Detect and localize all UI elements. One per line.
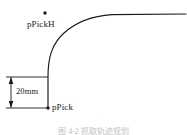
pick-high-point-marker bbox=[43, 11, 46, 14]
dimension-arrow-up-icon bbox=[9, 77, 14, 84]
figure-caption: 图 4-2 抓取轨迹规划 bbox=[0, 125, 187, 135]
pick-point-marker bbox=[46, 106, 49, 109]
trajectory-path bbox=[48, 14, 186, 108]
figure-container: pPickH pPick 20mm 图 4-2 抓取轨迹规划 bbox=[0, 0, 187, 135]
vertical-offset-dimension-label: 20mm bbox=[16, 86, 38, 96]
pick-point-label: pPick bbox=[52, 102, 73, 112]
pick-high-point-label: pPickH bbox=[27, 19, 55, 29]
dimension-arrow-down-icon bbox=[9, 101, 14, 108]
